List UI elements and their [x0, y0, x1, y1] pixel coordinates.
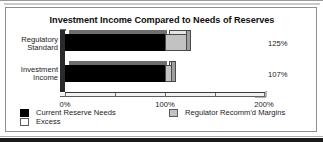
- legend-swatch-black: [20, 109, 29, 117]
- category-label-line-2: Income: [2, 74, 58, 82]
- category-label-regulatory-standard: Regulatory Standard: [2, 36, 58, 53]
- chart-title: Investment Income Compared to Needs of R…: [6, 15, 318, 25]
- chart-legend: Current Reserve Needs Excess Regulator R…: [6, 108, 318, 132]
- value-axis-end-bevel: [255, 91, 267, 98]
- axis-tick-200: [264, 93, 265, 97]
- legend-swatch-white: [20, 118, 29, 126]
- axis-tick-150: [215, 93, 216, 97]
- category-label-investment-income: Investment Income: [2, 66, 58, 83]
- value-label-investment-income: 107%: [268, 70, 287, 79]
- category-label-line-2: Standard: [2, 44, 58, 52]
- bar-segment-current-reserve-needs: [65, 65, 165, 82]
- legend-label: Excess: [36, 117, 60, 126]
- legend-label: Regulator Recomm'd Margins: [185, 108, 285, 117]
- legend-label: Current Reserve Needs: [36, 108, 116, 117]
- chart-screenshot: Investment Income Compared to Needs of R…: [0, 0, 323, 142]
- bar-segment-margins-side-face: [186, 30, 191, 51]
- bottom-divider-bar: [0, 138, 323, 142]
- bar-segment-regulator-margins: [165, 34, 187, 51]
- axis-tick-50: [115, 93, 116, 97]
- bottom-divider-thin: [0, 136, 323, 137]
- value-label-regulatory-standard: 125%: [268, 39, 287, 48]
- bar-segment-current-reserve-needs: [65, 34, 165, 51]
- top-divider-line: [0, 0, 323, 1]
- value-axis-slab: [60, 93, 265, 97]
- axis-tick-100: [165, 93, 166, 97]
- bar-group-regulatory-standard: [65, 34, 265, 58]
- legend-swatch-gray: [169, 109, 178, 117]
- bar-group-investment-income: [65, 65, 265, 89]
- axis-tick-0: [65, 93, 66, 97]
- top-divider-band: [4, 3, 320, 5]
- bar-segment-margins-side-face: [171, 61, 176, 82]
- category-axis-labels: Regulatory Standard Investment Income: [6, 28, 58, 100]
- chart-frame: Investment Income Compared to Needs of R…: [5, 7, 317, 132]
